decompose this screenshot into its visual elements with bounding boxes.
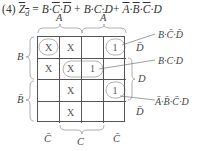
kmap-cell: X [38,59,60,81]
kmap-cell: X [38,37,60,59]
kmap-cell: 1 [104,80,126,102]
kmap-cell [38,80,60,102]
kmap-cell [104,102,126,124]
label-d-bar-bottom: D̄ [136,107,144,118]
label-d-bar-top: D̄ [136,43,144,54]
label-b: B [17,52,23,63]
kmap-cell [104,59,126,81]
label-a-bar: Ā [100,13,106,24]
kmap-cell: 1 [104,37,126,59]
kmap-cell: X [60,80,82,102]
label-b-bar: B̄ [17,95,23,106]
label-c: C [77,137,84,148]
label-d: D [138,74,146,85]
kmap-cell: 1 [82,59,104,81]
annotation-term-2: B·C·D [158,55,183,66]
label-c-bar-left: C̄ [44,134,51,145]
kmap-cell [82,37,104,59]
kmap-cell [82,80,104,102]
kmap-cell [38,102,60,124]
kmap-cell: X [60,59,82,81]
kmap-cell: X [60,37,82,59]
label-c-bar-right: C̄ [113,134,120,145]
karnaugh-map: X X 1 X X 1 X 1 X [37,36,125,122]
label-a: A [56,13,62,24]
kmap-cell [82,102,104,124]
annotation-term-3: Ā·B̄·C̄·D [155,96,189,107]
annotation-term-1: B·C̄·D̄ [158,29,183,40]
kmap-cell: X [60,102,82,124]
